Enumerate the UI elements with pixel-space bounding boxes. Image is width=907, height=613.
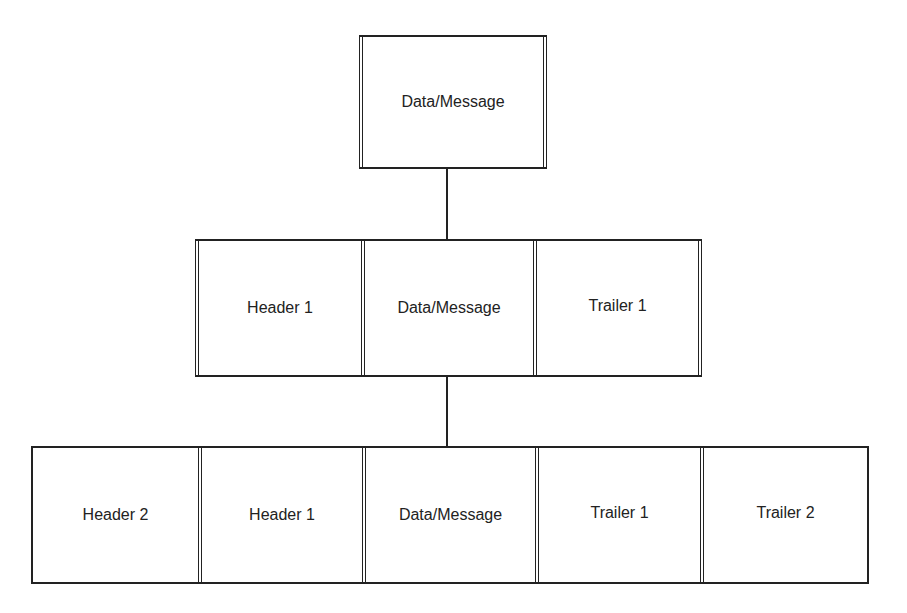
level-2-header-2: Header 2	[31, 448, 198, 582]
cell-label: Data/Message	[401, 93, 504, 111]
level-1-data-message: Data/Message	[361, 241, 533, 375]
level-1-header-1: Header 1	[195, 241, 361, 375]
cell-label: Trailer 1	[590, 504, 648, 522]
level-1-row: Header 1 Data/Message Trailer 1	[195, 239, 702, 377]
cell-label: Data/Message	[399, 506, 502, 524]
connector-line-1-2	[446, 377, 448, 447]
connector-line-0-1	[446, 169, 448, 240]
level-2-row: Header 2 Header 1 Data/Message Trailer 1…	[31, 446, 869, 584]
level-2-data-message: Data/Message	[362, 448, 535, 582]
level-2-trailer-2: Trailer 2	[700, 448, 869, 582]
cell-label: Data/Message	[397, 299, 500, 317]
cell-label: Trailer 2	[756, 504, 814, 522]
level-2-header-1: Header 1	[198, 448, 362, 582]
level-2-trailer-1: Trailer 1	[535, 448, 700, 582]
level-0-box: Data/Message	[359, 35, 547, 169]
cell-label: Trailer 1	[588, 297, 646, 315]
cell-label: Header 1	[249, 506, 315, 524]
cell-label: Header 2	[83, 506, 149, 524]
level-1-trailer-1: Trailer 1	[533, 241, 702, 375]
level-0-data-message: Data/Message	[359, 37, 547, 167]
cell-label: Header 1	[247, 299, 313, 317]
